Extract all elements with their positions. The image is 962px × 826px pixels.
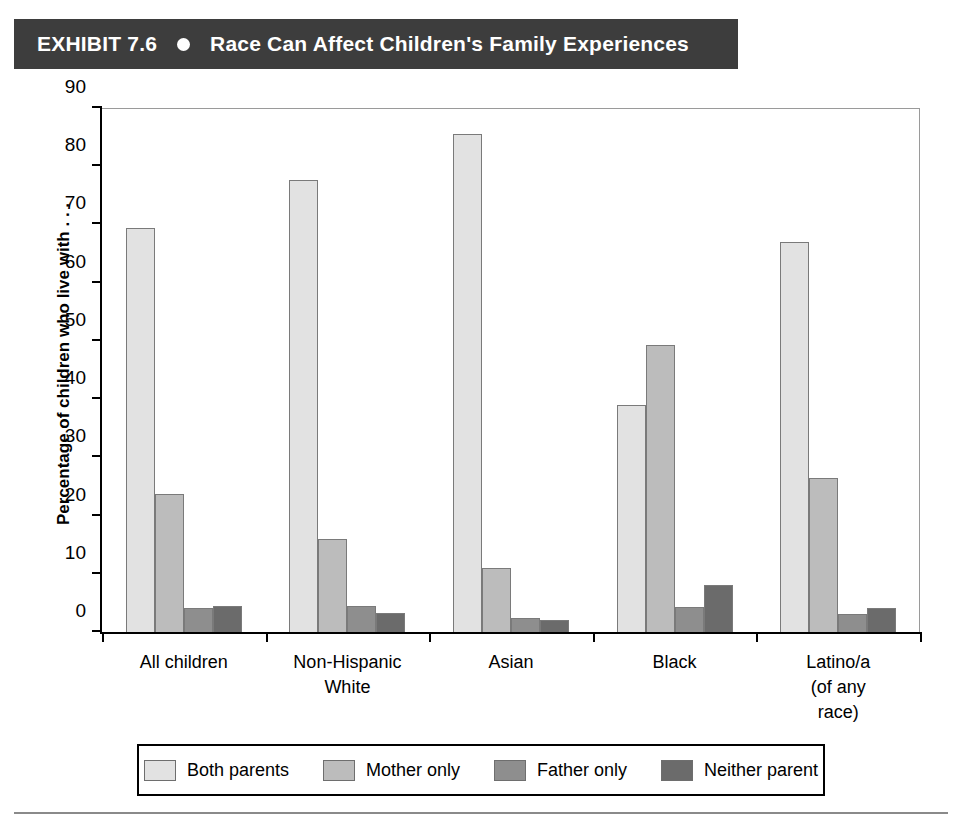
y-axis-tick (92, 397, 102, 399)
legend-label: Mother only (366, 760, 460, 781)
bar (155, 494, 184, 632)
exhibit-header-bar: EXHIBIT 7.6 Race Can Affect Children's F… (14, 19, 738, 69)
legend-swatch-icon (661, 760, 693, 781)
x-axis-tick (266, 632, 268, 642)
x-axis-tick (429, 632, 431, 642)
circle-bullet-icon (177, 38, 190, 51)
bar-group (756, 108, 920, 632)
bar (318, 539, 347, 632)
bar (540, 620, 569, 632)
legend-swatch-icon (494, 760, 526, 781)
bar (780, 242, 809, 632)
y-axis-tick (92, 339, 102, 341)
bar (675, 607, 704, 632)
y-axis-tick (92, 281, 102, 283)
y-axis-tick (92, 455, 102, 457)
legend-swatch-icon (323, 760, 355, 781)
plot-area: 0102030405060708090 All childrenNon-Hisp… (100, 108, 920, 634)
bar-chart: Percentage of children who live with . .… (0, 86, 962, 686)
bar (809, 478, 838, 632)
x-axis-category-label: Black (653, 650, 697, 675)
x-axis-tick (102, 632, 104, 642)
y-axis-tick (92, 630, 102, 632)
bar-group (429, 108, 593, 632)
y-axis-tick (92, 222, 102, 224)
y-axis-tick (92, 572, 102, 574)
y-axis-tick-label: 80 (65, 134, 86, 156)
y-axis-tick-label: 40 (65, 367, 86, 389)
exhibit-number: EXHIBIT 7.6 (37, 32, 157, 56)
x-axis-category-label: Asian (488, 650, 533, 675)
bar (376, 613, 405, 632)
bar (126, 228, 155, 632)
legend-label: Both parents (187, 760, 289, 781)
y-axis-tick-label: 60 (65, 251, 86, 273)
y-axis-tick (92, 164, 102, 166)
bar (289, 180, 318, 632)
legend-item[interactable]: Both parents (144, 760, 289, 781)
y-axis-tick-label: 20 (65, 484, 86, 506)
x-axis-category-label: Latino/a (of any race) (806, 650, 870, 725)
bar-group (102, 108, 266, 632)
bottom-divider (14, 812, 948, 814)
legend-swatch-icon (144, 760, 176, 781)
x-axis-category-label: All children (140, 650, 228, 675)
chart-legend: Both parentsMother onlyFather onlyNeithe… (137, 744, 825, 796)
x-axis-category-label: Non-Hispanic White (293, 650, 401, 700)
y-axis-tick (92, 106, 102, 108)
bar (867, 608, 896, 632)
bar (347, 606, 376, 632)
y-axis-tick-label: 10 (65, 542, 86, 564)
y-axis-tick-label: 70 (65, 192, 86, 214)
bar-group (593, 108, 757, 632)
x-axis-tick (593, 632, 595, 642)
legend-item[interactable]: Father only (494, 760, 627, 781)
bar (482, 568, 511, 632)
legend-item[interactable]: Mother only (323, 760, 460, 781)
bar (646, 345, 675, 632)
legend-item[interactable]: Neither parent (661, 760, 818, 781)
legend-label: Father only (537, 760, 627, 781)
y-axis-tick-label: 90 (65, 76, 86, 98)
y-axis-tick-label: 0 (75, 600, 86, 622)
exhibit-title: Race Can Affect Children's Family Experi… (210, 32, 689, 56)
x-axis-tick (756, 632, 758, 642)
bar (511, 618, 540, 632)
bar (453, 134, 482, 632)
bar (704, 585, 733, 632)
y-axis-tick (92, 514, 102, 516)
bar (838, 614, 867, 632)
x-axis-tick (920, 632, 922, 642)
bar (184, 608, 213, 632)
bar (213, 606, 242, 632)
y-axis-tick-label: 50 (65, 309, 86, 331)
legend-label: Neither parent (704, 760, 818, 781)
bar (617, 405, 646, 632)
bar-group (266, 108, 430, 632)
y-axis-tick-label: 30 (65, 425, 86, 447)
